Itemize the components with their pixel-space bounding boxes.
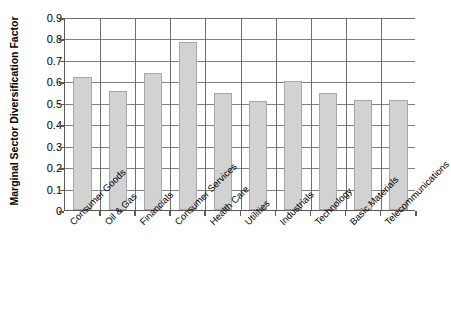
y-axis-tick-mark — [59, 18, 64, 20]
y-axis-tick-mark — [59, 39, 64, 41]
y-axis-tick-mark — [59, 125, 64, 127]
y-axis-tick-label: 0 — [30, 206, 62, 217]
bar — [319, 93, 337, 210]
x-axis-tick-mark — [275, 211, 277, 216]
bar — [354, 100, 372, 210]
x-axis-tick-mark — [380, 211, 382, 216]
y-axis-tick-label: 0.4 — [30, 120, 62, 131]
x-axis-tick-mark — [204, 211, 206, 216]
y-axis-tick-label: 0.2 — [30, 163, 62, 174]
category-separator — [276, 18, 277, 210]
category-separator — [311, 18, 312, 210]
y-axis-tick-label: 0.9 — [30, 13, 62, 24]
y-axis-tick-labels: 00.10.20.30.40.50.60.70.80.9 — [26, 18, 62, 211]
category-separator — [100, 18, 101, 210]
y-axis-title: Marginal Sector Diversification Factor — [8, 11, 24, 211]
y-axis-tick-mark — [59, 61, 64, 63]
x-axis-tick-mark — [134, 211, 136, 216]
x-axis-tick-mark — [415, 211, 417, 216]
y-axis-tick-label: 0.5 — [30, 98, 62, 109]
x-axis-tick-mark — [169, 211, 171, 216]
category-separator — [241, 18, 242, 210]
y-axis-tick-label: 0.7 — [30, 55, 62, 66]
bar — [73, 77, 91, 210]
bar — [179, 42, 197, 210]
category-separator — [346, 18, 347, 210]
category-separator — [205, 18, 206, 210]
y-axis-tick-mark — [59, 82, 64, 84]
y-axis-tick-label: 0.1 — [30, 184, 62, 195]
y-axis-tick-label: 0.6 — [30, 77, 62, 88]
bar — [249, 101, 267, 210]
bar — [214, 93, 232, 210]
y-axis-tick-mark — [59, 147, 64, 149]
x-axis-tick-mark — [345, 211, 347, 216]
y-axis-tick-label: 0.3 — [30, 141, 62, 152]
bar — [389, 100, 407, 210]
x-axis-tick-mark — [310, 211, 312, 216]
y-axis-tick-mark — [59, 168, 64, 170]
y-axis-tick-mark — [59, 104, 64, 106]
y-axis-tick-label: 0.8 — [30, 34, 62, 45]
bar — [109, 91, 127, 210]
y-axis-tick-mark — [59, 190, 64, 192]
y-axis-tick-mark — [59, 211, 64, 213]
category-separator — [381, 18, 382, 210]
category-separator — [135, 18, 136, 210]
bar — [144, 73, 162, 210]
x-axis-tick-mark — [99, 211, 101, 216]
category-separator — [170, 18, 171, 210]
x-axis-tick-mark — [240, 211, 242, 216]
bar — [284, 81, 302, 210]
